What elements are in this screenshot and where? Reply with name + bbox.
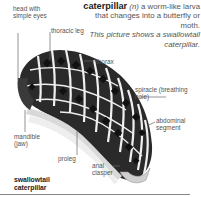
definition-block: caterpillar (n) a worm-like larva that c… — [82, 2, 200, 49]
label-spiracle: spiracle (breathing hole) — [135, 86, 201, 101]
definition-note: This picture shows a swallowtail caterpi… — [82, 30, 200, 49]
label-abdominal-segment: abdominal segment — [156, 117, 200, 132]
caption: swallowtail caterpillar — [14, 176, 50, 193]
label-mandible: mandible (jaw) — [14, 133, 46, 148]
caption-line-1: swallowtail — [14, 176, 50, 184]
part-of-speech: (n) — [129, 2, 139, 11]
label-proleg: proleg — [58, 155, 76, 162]
label-thoracic-leg: thoracic leg — [51, 27, 84, 34]
definition-term: caterpillar — [83, 1, 127, 11]
label-thorax: thorax — [96, 58, 114, 65]
label-head: head with simple eyes — [13, 5, 49, 20]
caption-line-2: caterpillar — [14, 184, 50, 192]
label-anal-clasper: anal clasper — [92, 162, 116, 177]
bottom-rule — [0, 194, 190, 195]
